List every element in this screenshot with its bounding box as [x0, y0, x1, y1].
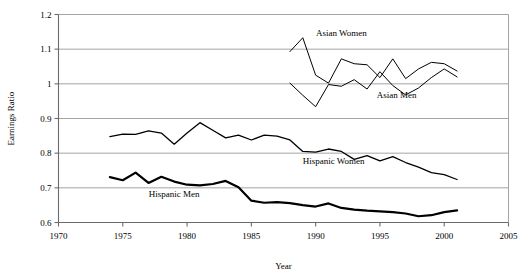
- y-axis-tick-label: 0.9: [40, 114, 52, 124]
- chart-canvas: 0.60.70.80.911.11.2197019751980198519901…: [0, 0, 529, 278]
- x-axis-tick-label: 1975: [114, 231, 133, 241]
- series-label-hispanic-men: Hispanic Men: [149, 189, 200, 199]
- series-label-asian-women: Asian Women: [316, 28, 367, 38]
- x-axis-tick-label: 1985: [242, 231, 261, 241]
- series-label-hispanic-women: Hispanic Women: [303, 156, 365, 166]
- y-axis-title: Earnings Ratio: [6, 91, 16, 145]
- x-axis-tick-label: 2000: [435, 231, 454, 241]
- earnings-ratio-line-chart: 0.60.70.80.911.11.2197019751980198519901…: [0, 0, 529, 278]
- y-axis-tick-label: 0.6: [40, 218, 52, 228]
- y-axis-tick-label: 0.7: [40, 183, 52, 193]
- x-axis-tick-label: 1995: [371, 231, 390, 241]
- y-axis-tick-label: 0.8: [40, 148, 52, 158]
- x-axis-tick-label: 1980: [178, 231, 197, 241]
- series-label-asian-men: Asian Men: [377, 90, 417, 100]
- series-line-asian-women: [290, 38, 457, 83]
- y-axis-tick-label: 1.2: [40, 10, 51, 20]
- y-axis-tick-label: 1: [47, 79, 52, 89]
- x-axis-tick-label: 1990: [307, 231, 326, 241]
- x-axis-tick-label: 2005: [500, 231, 519, 241]
- y-axis-tick-label: 1.1: [40, 44, 51, 54]
- x-axis-title: Year: [275, 261, 292, 271]
- x-axis-tick-label: 1970: [50, 231, 69, 241]
- series-line-hispanic-women: [110, 123, 457, 180]
